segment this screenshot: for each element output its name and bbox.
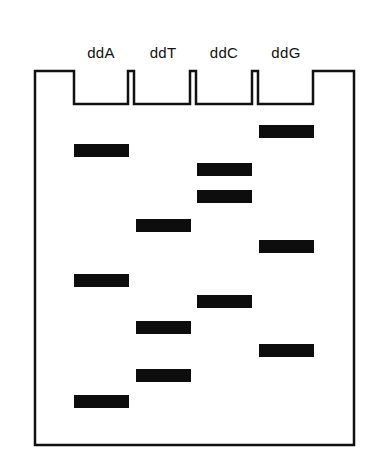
band-ddC-2 xyxy=(197,190,252,203)
band-ddC-3 xyxy=(197,295,252,308)
band-ddA-2 xyxy=(74,274,129,287)
lane-label-ddT: ddT xyxy=(133,44,193,61)
band-ddA-1 xyxy=(74,144,129,157)
band-ddA-3 xyxy=(74,395,129,408)
band-ddG-1 xyxy=(259,125,314,138)
band-ddT-1 xyxy=(136,219,191,232)
band-ddT-2 xyxy=(136,321,191,334)
lane-label-ddA: ddA xyxy=(71,44,131,61)
lane-label-ddG: ddG xyxy=(256,44,316,61)
band-ddG-2 xyxy=(259,240,314,253)
lane-label-ddC: ddC xyxy=(194,44,254,61)
band-ddG-3 xyxy=(259,344,314,357)
band-ddT-3 xyxy=(136,369,191,382)
band-ddC-1 xyxy=(197,163,252,176)
